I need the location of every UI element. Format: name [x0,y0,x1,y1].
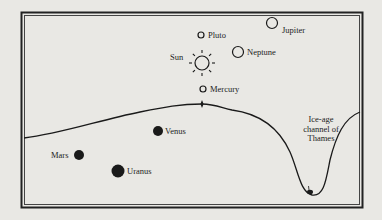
body-mercury: Mercury [200,84,240,94]
diagram-canvas: JupiterPlutoNeptuneSunMercuryVenusMarsUr… [0,0,382,220]
mercury-icon [200,86,206,92]
pluto-label: Pluto [208,30,226,40]
uranus-label: Uranus [127,166,152,176]
sun-label: Sun [170,52,184,62]
annotation-line: channel of [303,124,339,134]
channel-figure-icon [307,186,313,194]
sun-icon [189,50,215,76]
jupiter-label: Jupiter [282,25,305,35]
neptune-icon [233,47,244,58]
mercury-label: Mercury [210,84,240,94]
mars-label: Mars [51,150,68,160]
celestial-bodies: JupiterPlutoNeptuneSunMercuryVenusMarsUr… [51,18,305,178]
channel-annotation: Ice-agechannel ofThames [303,114,339,143]
body-uranus: Uranus [112,165,152,178]
mars-icon [74,150,84,160]
body-sun: Sun [170,50,215,76]
jupiter-icon [267,18,278,29]
uranus-icon [112,165,125,178]
frame-border [22,13,363,208]
venus-label: Venus [165,126,186,136]
body-jupiter: Jupiter [267,18,306,36]
body-mars: Mars [51,150,84,160]
body-venus: Venus [153,126,186,136]
venus-icon [153,126,163,136]
annotation-line: Thames [308,133,335,143]
body-neptune: Neptune [233,47,277,58]
neptune-label: Neptune [247,47,276,57]
body-pluto: Pluto [198,30,226,40]
landmark-marker-icon [200,100,203,108]
thames-planets-diagram: JupiterPlutoNeptuneSunMercuryVenusMarsUr… [0,0,382,220]
pluto-icon [198,32,204,38]
annotation-line: Ice-age [308,114,333,124]
